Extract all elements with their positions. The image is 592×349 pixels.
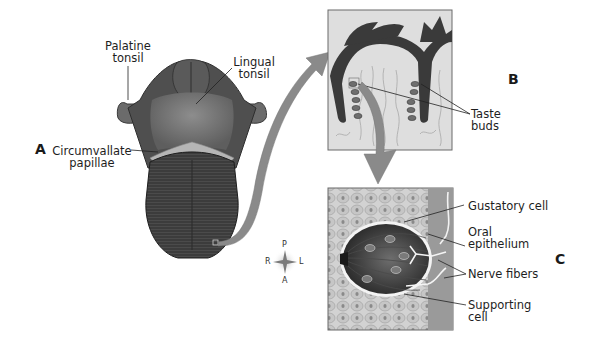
- panel-b-illustration: [328, 10, 452, 150]
- panel-c-illustration: [328, 188, 453, 330]
- label-taste-line2: buds: [471, 120, 501, 132]
- label-nerve-fibers: Nerve fibers: [468, 268, 538, 280]
- label-circ-line2: papillae: [52, 157, 132, 169]
- anatomy-figure: [0, 0, 592, 349]
- label-circumvallate-papillae: Circumvallate papillae: [52, 145, 132, 169]
- compass-rose: [273, 250, 297, 274]
- label-supporting-line2: cell: [468, 311, 531, 323]
- label-lingual-tonsil: Lingual tonsil: [232, 56, 276, 80]
- label-oral-line2: epithelium: [468, 238, 529, 250]
- label-oral-epithelium: Oral epithelium: [468, 226, 529, 250]
- panel-letter-b: B: [508, 71, 519, 87]
- label-supporting-cell: Supporting cell: [468, 299, 531, 323]
- compass-anterior: A: [282, 276, 287, 285]
- compass-posterior: P: [282, 240, 287, 249]
- label-palatine-tonsil: Palatine tonsil: [104, 40, 152, 64]
- compass-left: L: [299, 257, 303, 266]
- label-taste-buds: Taste buds: [471, 108, 501, 132]
- panel-letter-a: A: [35, 141, 46, 157]
- panel-letter-c: C: [555, 251, 565, 267]
- label-gustatory-cell: Gustatory cell: [468, 200, 548, 212]
- label-palatine-line2: tonsil: [104, 52, 152, 64]
- compass-right: R: [265, 257, 271, 266]
- label-lingual-line2: tonsil: [232, 68, 276, 80]
